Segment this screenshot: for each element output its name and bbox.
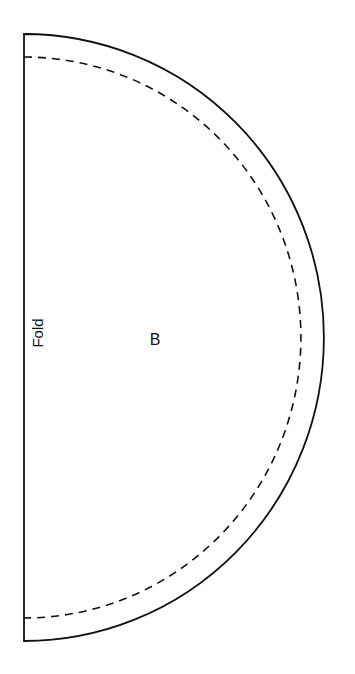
seam-line	[24, 57, 301, 618]
pattern-piece-diagram: Fold B	[0, 0, 355, 674]
piece-label: B	[150, 331, 161, 348]
cut-line	[24, 34, 324, 641]
fold-label: Fold	[29, 318, 46, 347]
